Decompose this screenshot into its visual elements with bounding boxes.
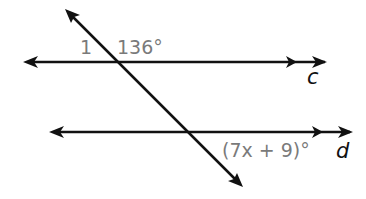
angle-expression-label: (7x + 9)° [222, 141, 310, 160]
line-d-label: d [336, 141, 349, 162]
angle-1-label: 1 [80, 38, 92, 57]
line-c-label: c [307, 67, 319, 88]
line-c [23, 56, 327, 68]
line-d [49, 126, 353, 138]
diagram-canvas [0, 0, 366, 199]
angle-136-label: 136° [117, 38, 163, 57]
